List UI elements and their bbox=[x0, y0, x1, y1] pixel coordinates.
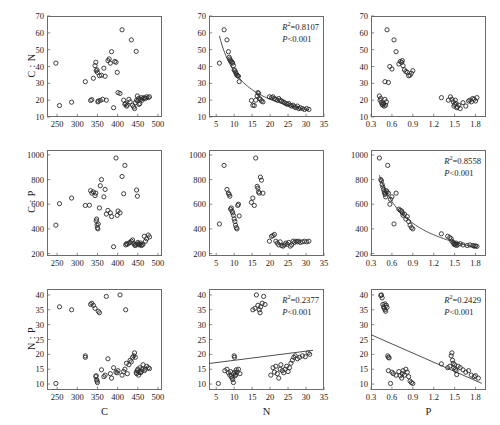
r-squared-value: R2=0.2429 bbox=[444, 293, 481, 306]
y-axis-tick-label: 600 bbox=[176, 200, 206, 209]
x-axis-tick-label: 10 bbox=[230, 259, 239, 268]
y-axis-tick-label: 15 bbox=[176, 365, 206, 374]
x-axis-tick-label: 20 bbox=[266, 120, 275, 129]
data-point bbox=[262, 294, 266, 298]
x-axis-tick-label: 250 bbox=[51, 393, 64, 402]
y-axis-tick-label: 40 bbox=[176, 291, 206, 300]
regression-stats: R2=0.8558P<0.001 bbox=[444, 154, 481, 180]
x-axis-tick-label: 0.9 bbox=[408, 259, 419, 268]
regression-stats: R2=0.8107P<0.001 bbox=[282, 20, 319, 46]
y-axis-tick-label: 400 bbox=[176, 225, 206, 234]
y-axis-tick-label: 10 bbox=[14, 380, 44, 389]
data-point bbox=[83, 80, 87, 84]
y-axis-label: N : P bbox=[26, 308, 37, 368]
data-point bbox=[120, 28, 124, 32]
y-axis-label: C : N bbox=[26, 35, 37, 95]
x-axis-tick-label: 35 bbox=[320, 120, 329, 129]
x-axis-tick-label: 1.5 bbox=[449, 120, 460, 129]
data-point bbox=[254, 156, 258, 160]
y-axis-tick-label: 1000 bbox=[176, 151, 206, 160]
data-point bbox=[134, 49, 138, 53]
x-axis-tick-label: 450 bbox=[131, 120, 144, 129]
x-axis-label: N bbox=[263, 406, 271, 417]
data-point bbox=[102, 66, 106, 70]
data-point bbox=[83, 203, 87, 207]
y-axis-tick-label: 25 bbox=[176, 335, 206, 344]
y-axis-tick-label: 40 bbox=[338, 291, 368, 300]
data-point bbox=[450, 351, 454, 355]
p-value: P<0.001 bbox=[282, 306, 319, 318]
data-point bbox=[124, 308, 128, 312]
data-point bbox=[464, 104, 468, 108]
x-axis-tick-label: 0.6 bbox=[387, 259, 398, 268]
data-point bbox=[122, 192, 126, 196]
y-axis-tick-label: 30 bbox=[176, 79, 206, 88]
data-point bbox=[394, 50, 398, 54]
x-axis-tick-label: 0.6 bbox=[387, 120, 398, 129]
x-axis-tick-label: 1.2 bbox=[428, 393, 439, 402]
y-axis-tick-label: 40 bbox=[176, 62, 206, 71]
y-axis-tick-label: 50 bbox=[176, 45, 206, 54]
data-point bbox=[132, 351, 136, 355]
data-point bbox=[114, 156, 118, 160]
data-point bbox=[123, 163, 127, 167]
plot-panel-np_vs_p: 101520253035400.30.60.91.21.51.8PR2=0.24… bbox=[371, 289, 486, 390]
p-value: P<0.001 bbox=[444, 167, 481, 179]
x-axis-tick-label: 400 bbox=[111, 120, 124, 129]
r-squared-value: R2=0.8107 bbox=[282, 20, 319, 33]
data-point bbox=[237, 214, 241, 218]
x-axis-tick-label: 450 bbox=[131, 393, 144, 402]
scatter-plot-matrix-figure: 10203040506070250300350400450500C : N102… bbox=[0, 0, 500, 425]
y-axis-tick-label: 20 bbox=[338, 96, 368, 105]
x-axis-tick-label: 15 bbox=[248, 120, 257, 129]
y-axis-tick-label: 20 bbox=[176, 350, 206, 359]
data-point bbox=[88, 302, 92, 306]
x-axis-tick-label: 500 bbox=[152, 393, 165, 402]
regression-stats: R2=0.2377P<0.001 bbox=[282, 293, 319, 319]
plot-panel-cp_vs_c: 2004006008001000250300350400450500C : P bbox=[47, 150, 162, 256]
data-point bbox=[231, 380, 235, 384]
x-axis-tick-label: 1.5 bbox=[449, 259, 460, 268]
plot-panel-np_vs_c: 10152025303540250300350400450500N : PC bbox=[47, 289, 162, 390]
data-point bbox=[476, 376, 480, 380]
data-point bbox=[277, 376, 281, 380]
plot-canvas bbox=[47, 150, 162, 256]
x-axis-tick-label: 250 bbox=[51, 120, 64, 129]
data-point bbox=[54, 381, 58, 385]
x-axis-label: P bbox=[426, 406, 432, 417]
data-point bbox=[99, 368, 103, 372]
data-point bbox=[99, 177, 103, 181]
data-point bbox=[237, 80, 241, 84]
y-axis-tick-label: 600 bbox=[338, 200, 368, 209]
x-axis-tick-label: 5 bbox=[214, 259, 218, 268]
data-point bbox=[102, 195, 106, 199]
y-axis-tick-label: 200 bbox=[338, 249, 368, 258]
plot-canvas bbox=[371, 16, 486, 117]
y-axis-tick-label: 70 bbox=[176, 12, 206, 21]
x-axis-tick-label: 250 bbox=[51, 259, 64, 268]
data-point bbox=[473, 374, 477, 378]
x-axis-tick-label: 35 bbox=[320, 259, 329, 268]
data-point bbox=[388, 381, 392, 385]
p-value: P<0.001 bbox=[282, 33, 319, 45]
plot-canvas bbox=[47, 289, 162, 390]
x-axis-tick-label: 350 bbox=[91, 120, 104, 129]
data-point bbox=[392, 38, 396, 42]
plot-panel-cn_vs_c: 10203040506070250300350400450500C : N bbox=[47, 16, 162, 117]
y-axis-tick-label: 1000 bbox=[14, 151, 44, 160]
data-point bbox=[217, 61, 221, 65]
x-axis-tick-label: 300 bbox=[71, 393, 84, 402]
data-point bbox=[111, 366, 115, 370]
x-axis-tick-label: 30 bbox=[302, 393, 311, 402]
x-axis-tick-label: 5 bbox=[214, 393, 218, 402]
data-point bbox=[407, 375, 411, 379]
y-axis-tick-label: 10 bbox=[14, 113, 44, 122]
data-point bbox=[57, 103, 61, 107]
data-point bbox=[120, 174, 124, 178]
x-axis-tick-label: 1.8 bbox=[470, 120, 481, 129]
data-point bbox=[411, 381, 415, 385]
p-value: P<0.001 bbox=[444, 306, 481, 318]
data-point bbox=[87, 203, 91, 207]
x-axis-tick-label: 300 bbox=[71, 259, 84, 268]
y-axis-tick-label: 70 bbox=[14, 12, 44, 21]
